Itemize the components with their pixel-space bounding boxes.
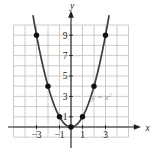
data-point (45, 84, 50, 89)
data-point (68, 124, 73, 129)
y-tick-label: 7 (63, 51, 68, 61)
x-tick-label: −3 (31, 130, 41, 140)
parabola-graph-figure: −3−11397531xyy = x2 (0, 0, 155, 153)
x-tick-label: 3 (103, 130, 108, 140)
y-tick-label: 5 (63, 71, 68, 81)
x-axis-arrow-icon (134, 124, 141, 130)
data-point (80, 114, 85, 119)
y-tick-label: 1 (63, 112, 68, 122)
x-tick-label: 1 (80, 130, 85, 140)
x-tick-label: −1 (54, 130, 64, 140)
data-point (103, 33, 108, 38)
y-axis-arrow-icon (68, 11, 74, 18)
y-tick-label: 3 (63, 92, 68, 102)
y-tick-label: 9 (63, 31, 68, 41)
data-point (57, 114, 62, 119)
data-point (34, 33, 39, 38)
equation-exponent: 2 (109, 92, 112, 98)
x-axis-label: x (145, 123, 151, 133)
data-point (91, 84, 96, 89)
equation-label: y = x2 (90, 92, 112, 103)
graph-canvas: −3−11397531xyy = x2 (0, 0, 155, 153)
y-axis-label: y (69, 1, 75, 11)
